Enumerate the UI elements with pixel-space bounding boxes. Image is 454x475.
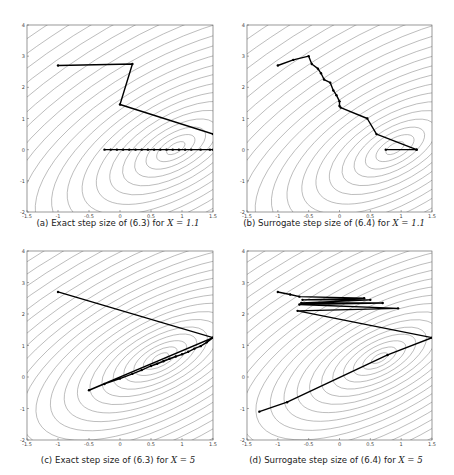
x-tick-label: 1.5 bbox=[428, 441, 436, 447]
y-tick-label: 3 bbox=[242, 280, 245, 286]
y-tick-label: 0 bbox=[242, 374, 245, 380]
iterate-marker bbox=[277, 291, 279, 293]
y-tick-label: 4 bbox=[242, 248, 245, 254]
caption-d: (d) Surrogate step size of (6.4) for X =… bbox=[230, 455, 442, 465]
x-tick-label: -0.5 bbox=[304, 441, 314, 447]
plot-d: -1.5-1-0.500.511.5-2-101234 bbox=[0, 0, 454, 475]
iterate-marker bbox=[397, 307, 399, 309]
y-tick-label: -1 bbox=[240, 406, 245, 412]
caption-math: X = 5 bbox=[399, 455, 423, 465]
iterate-marker bbox=[258, 410, 260, 412]
iterate-marker bbox=[301, 299, 303, 301]
iterate-marker bbox=[286, 401, 288, 403]
x-tick-label: 1 bbox=[400, 441, 403, 447]
subplot-d: -1.5-1-0.500.511.5-2-101234 (d) Surrogat… bbox=[0, 0, 454, 475]
iterate-marker bbox=[298, 295, 300, 297]
x-tick-label: 0 bbox=[338, 441, 341, 447]
x-tick-label: -1 bbox=[275, 441, 280, 447]
y-tick-label: -2 bbox=[240, 437, 245, 443]
y-tick-label: 2 bbox=[242, 311, 245, 317]
iterate-marker bbox=[298, 303, 300, 305]
iterate-marker bbox=[300, 302, 302, 304]
x-tick-label: 0.5 bbox=[366, 441, 374, 447]
iterate-marker bbox=[369, 299, 371, 301]
iterate-marker bbox=[296, 310, 298, 312]
iterate-marker bbox=[431, 336, 433, 338]
contour-lines bbox=[0, 0, 454, 475]
iterate-marker bbox=[363, 297, 365, 299]
caption-text: (d) Surrogate step size of (6.4) for bbox=[249, 455, 398, 465]
iterate-marker bbox=[381, 302, 383, 304]
y-tick-label: 1 bbox=[242, 343, 245, 349]
iterate-marker bbox=[386, 354, 388, 356]
iterate-marker bbox=[289, 293, 291, 295]
